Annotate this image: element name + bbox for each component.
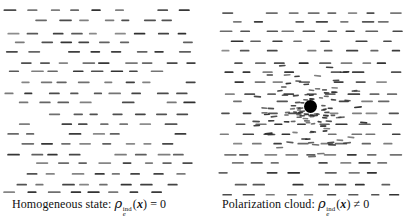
dipole-dash [362,21,375,23]
dipole-dash [130,173,140,175]
dipole-dash [299,62,309,64]
dipole-dash [292,184,303,186]
dipole-dash [240,50,250,52]
dipole-dash [94,93,102,95]
dipole-dash [244,93,255,95]
dipole-dash [78,162,87,164]
dipole-dash [303,99,308,101]
dipole-dash [57,102,69,104]
dipole-dash [319,97,324,99]
dipole-dash [167,102,177,104]
dipole-dash [253,125,260,127]
dipole-dash [110,133,120,135]
dipole-dash [15,42,25,44]
dipole-dash [21,62,32,64]
dipole-dash [354,90,361,92]
dipole-dash [98,62,110,64]
dipole-dash [334,81,344,83]
dipole-dash [320,40,330,42]
dipole-dash [78,82,90,84]
dipole-dash [383,40,392,42]
dipole-dash [308,156,316,158]
dipole-dash [93,133,105,135]
dipole-dash [270,115,277,117]
dipole-dash [70,93,78,95]
dipole-dash [78,123,88,125]
dipole-dash [120,42,129,44]
dipole-dash [315,88,321,90]
dipole-dash [389,194,399,196]
dipole-dash [267,93,276,95]
dipole-dash [336,139,343,141]
dipole-dash [70,9,79,11]
dipole-dash [231,40,244,42]
dipole-dash [316,21,328,23]
dipole-dash [290,108,296,110]
dipole-dash [340,162,351,164]
dipole-dash [349,172,360,174]
dipole-dash [277,101,289,103]
dipole-dash [80,102,92,104]
dipole-dash [222,12,233,14]
dipole-dash [273,143,282,145]
dipole-dash [179,51,191,53]
dipole-dash [331,99,337,101]
dipole-dash [19,102,29,104]
dipole-dash [167,62,178,64]
dipole-dash [281,30,294,32]
dipole-dash [3,191,15,193]
dipole-dash [355,40,367,42]
dipole-dash [336,116,342,118]
right-caption-text: Polarization cloud: [222,197,318,211]
dipole-dash [173,154,184,156]
dipole-dash [273,81,284,83]
dipole-dash [330,113,339,115]
dipole-dash [267,134,275,136]
dipole-dash [108,191,118,193]
dipole-dash [328,133,337,135]
subscript-e: e [326,211,329,217]
dipole-dash [90,51,100,53]
dipole-dash [156,114,167,116]
dipole-dash [362,143,371,145]
dipole-dash [243,113,252,115]
dipole-dash [130,191,139,193]
dipole-dash [236,123,246,125]
dipole-dash [284,114,289,116]
dipole-dash [73,70,84,72]
dipole-dash [325,172,337,174]
dipole-dash [284,121,290,123]
dipole-dash [178,33,187,35]
polarization-figure: Homogeneous state: ρinde(x)=0 Polarizati… [0,0,414,224]
dipole-dash [261,112,268,114]
dipole-dash [392,50,401,52]
dipole-dash [35,20,47,22]
dipole-dash [135,154,147,156]
dipole-dash [46,173,55,175]
dipole-dash [225,93,235,95]
left-caption-formula: ρinde(x)=0 [115,197,167,211]
dipole-dash [331,87,338,89]
dipole-dash [285,112,290,114]
dipole-dash [123,162,132,164]
dipole-dash [233,21,242,23]
dipole-dash [360,122,368,124]
dipole-dash [59,62,69,64]
dipole-dash [302,118,308,120]
dipole-dash [91,70,104,72]
dipole-dash [27,173,38,175]
dipole-dash [318,184,329,186]
dipole-dash [252,143,262,145]
dipole-dash [27,9,37,11]
dipole-dash [321,105,326,107]
dipole-dash [41,143,53,145]
dipole-dash [168,184,178,186]
dipole-dash [129,70,138,72]
dipole-dash [71,33,83,35]
dipole-dash [314,75,321,77]
dipole-dash [27,191,36,193]
dipole-dash [47,154,58,156]
dipole-dash [48,191,61,193]
not-equals-sign: ≠ [354,197,361,211]
zero-value: 0 [160,197,166,211]
